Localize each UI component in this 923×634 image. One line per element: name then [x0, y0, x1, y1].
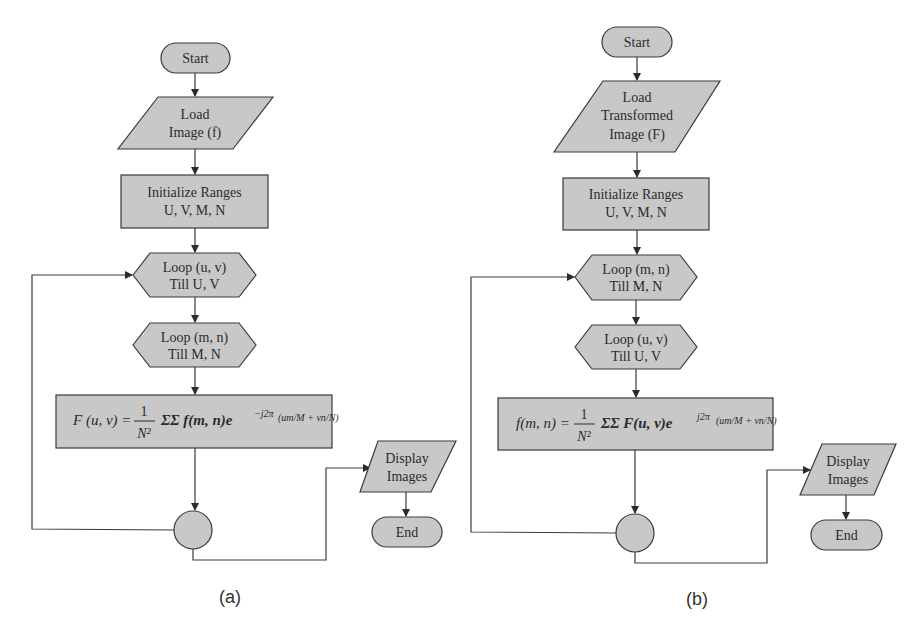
formula-inner: (um/M + vn/N) — [278, 412, 339, 424]
init-label-line2: U, V, M, N — [164, 203, 226, 218]
loop-inner-line2: Till M, N — [168, 347, 221, 362]
initialize-ranges-process-b — [563, 178, 709, 230]
loop-outer-line1: Loop (u, v) — [163, 260, 227, 276]
loop-inner-b-line2: Till U, V — [611, 349, 661, 364]
loop-connector-circle-b — [616, 514, 654, 552]
start-label-b: Start — [624, 35, 651, 50]
display-images-io-b — [800, 444, 896, 495]
formula-b-frac-den: N² — [576, 429, 591, 444]
init-b-line2: U, V, M, N — [605, 205, 667, 220]
loop-outer-line2: Till U, V — [169, 277, 219, 292]
loop-outer-b-line2: Till M, N — [610, 279, 663, 294]
loop-outer-b-line1: Loop (m, n) — [602, 262, 670, 278]
init-label-line1: Initialize Ranges — [147, 185, 241, 200]
load-b-line1: Load — [623, 90, 652, 105]
formula-lhs: F (u, v) = — [72, 412, 131, 429]
caption-b: (b) — [686, 589, 708, 609]
flowchart-a: Start Load Image (f) Initialize Ranges U… — [32, 43, 456, 607]
display-line2: Images — [387, 469, 427, 484]
loop-inner-line1: Loop (m, n) — [161, 330, 229, 346]
load-b-line2: Transformed — [601, 108, 673, 123]
formula-b-frac-num: 1 — [581, 407, 588, 422]
initialize-ranges-process — [121, 175, 268, 228]
formula-frac-den: N² — [136, 426, 151, 441]
flowchart-figure: Start Load Image (f) Initialize Ranges U… — [0, 0, 923, 634]
load-label-line2: Image (f) — [169, 125, 222, 141]
arrow-connector-to-display-b — [635, 470, 810, 563]
display-line1: Display — [385, 451, 429, 466]
loop-inner-b-line1: Loop (u, v) — [604, 332, 668, 348]
end-label-b: End — [835, 528, 858, 543]
load-label-line1: Load — [181, 107, 210, 122]
arrow-connector-to-display — [193, 468, 370, 560]
formula-b-lhs: f(m, n) = — [516, 415, 570, 432]
loop-connector-circle — [174, 511, 212, 549]
load-image-io — [118, 97, 273, 149]
formula-b-inner: (um/M + vn/N) — [716, 415, 777, 427]
display-b-line2: Images — [828, 472, 868, 487]
end-label: End — [396, 525, 419, 540]
display-images-io — [360, 441, 456, 492]
init-b-line1: Initialize Ranges — [589, 187, 683, 202]
flowchart-b: Start Load Transformed Image (F) Initial… — [471, 27, 896, 609]
formula-exponent: −j2π — [254, 408, 275, 419]
load-b-line3: Image (F) — [609, 127, 665, 143]
caption-a: (a) — [219, 587, 241, 607]
formula-frac-num: 1 — [141, 404, 148, 419]
formula-b-exponent: j2π — [695, 411, 711, 422]
display-b-line1: Display — [826, 454, 870, 469]
formula-sum: ΣΣ f(m, n)e — [160, 412, 233, 429]
start-label: Start — [182, 51, 209, 66]
formula-b-sum: ΣΣ F(u, v)e — [600, 415, 673, 432]
